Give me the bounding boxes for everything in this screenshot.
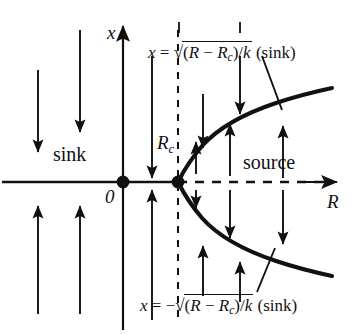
- upper-eq-lhs: x: [148, 43, 156, 62]
- lower-eq-suffix: (sink): [257, 296, 297, 315]
- upper-eq-suffix: (sink): [256, 43, 296, 62]
- sink-region-label: sink: [53, 144, 86, 164]
- upper-eq-minus: −: [203, 43, 213, 62]
- origin-label: 0: [105, 187, 115, 206]
- upper-branch-equation: x = √(R − Rc)/k (sink): [148, 44, 296, 64]
- lower-eq-operator: =: [152, 296, 162, 315]
- lower-eq-radicand: (R − Rc)/k: [184, 294, 254, 315]
- upper-label-leader: [262, 56, 282, 110]
- upper-eq-operator: =: [160, 43, 170, 62]
- critical-value-symbol: R: [157, 132, 169, 153]
- source-region-label: source: [243, 152, 295, 172]
- origin-point: [117, 176, 130, 189]
- lower-branch-equation: x = −√(R − Rc)/k (sink): [140, 297, 297, 317]
- lower-branch-curve: [178, 182, 332, 276]
- bifurcation-point: [172, 176, 185, 189]
- flow-arrows: [38, 30, 283, 320]
- lower-eq-lhs: x: [140, 296, 148, 315]
- upper-eq-denominator: k: [243, 43, 251, 62]
- lower-eq-term-a: R: [190, 296, 200, 315]
- lower-eq-denominator: k: [245, 296, 253, 315]
- critical-value-subscript: c: [169, 141, 175, 156]
- R-axis-label: R: [327, 192, 339, 211]
- axis-lines: [2, 26, 337, 330]
- tick-marks: [179, 22, 240, 33]
- lower-eq-sign: −: [166, 296, 176, 315]
- lower-eq-term-b: R: [219, 296, 229, 315]
- upper-eq-term-b: R: [217, 43, 227, 62]
- dashed-guides: [178, 30, 332, 322]
- upper-eq-term-a: R: [189, 43, 199, 62]
- bifurcation-diagram: x R 0 Rc sink source x = √(R − Rc)/k (si…: [0, 0, 357, 334]
- lower-eq-minus: −: [205, 296, 215, 315]
- critical-value-label: Rc: [157, 133, 174, 156]
- x-axis-label: x: [107, 23, 115, 42]
- upper-eq-radicand: (R − Rc)/k: [182, 41, 252, 62]
